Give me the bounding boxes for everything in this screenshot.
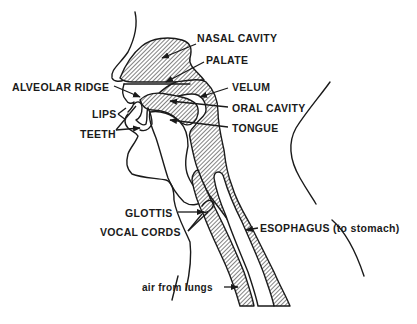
- nasal-cavity-region: [120, 38, 204, 82]
- label-esophagus: ESOPHAGUS (to stomach): [260, 222, 400, 234]
- label-palate: PALATE: [206, 54, 248, 66]
- label-oral-cavity: ORAL CAVITY: [232, 102, 306, 114]
- lips-leader-upper: [118, 108, 126, 114]
- label-teeth: TEETH: [80, 128, 116, 140]
- label-lips: LIPS: [92, 108, 117, 120]
- upper-lip: [123, 84, 134, 112]
- label-velum: VELUM: [232, 81, 270, 93]
- label-air-from-lungs: air from lungs: [142, 282, 213, 293]
- label-alveolar-ridge: ALVEOLAR RIDGE: [12, 81, 109, 93]
- label-tongue: TONGUE: [232, 122, 279, 134]
- back-of-neck: [291, 82, 330, 204]
- alveolar-ridge-leader: [114, 86, 140, 97]
- label-vocal-cords: VOCAL CORDS: [100, 226, 181, 238]
- vocal-tract-diagram: NASAL CAVITY PALATE ALVEOLAR RIDGE VELUM…: [0, 0, 417, 324]
- vocal-cords-leader-2: [188, 212, 208, 231]
- label-glottis: GLOTTIS: [125, 207, 173, 219]
- label-nasal-cavity: NASAL CAVITY: [197, 32, 277, 44]
